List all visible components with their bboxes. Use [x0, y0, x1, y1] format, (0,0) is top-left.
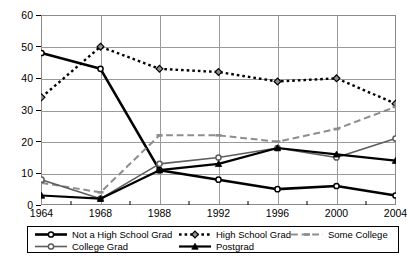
x-axis-tick-label: 2004 — [376, 207, 416, 219]
y-axis-tick-label: 40 — [1, 73, 33, 83]
series-data-point — [393, 193, 396, 198]
y-axis-tick-label: 30 — [1, 105, 33, 115]
legend-label: Some College — [328, 230, 388, 240]
y-axis-tick-label: 20 — [1, 137, 33, 147]
series-data-point — [41, 177, 44, 182]
series-data-point — [393, 136, 396, 141]
series-data-point — [156, 65, 163, 72]
legend-swatch-icon — [34, 241, 68, 252]
legend-swatch-icon — [178, 229, 212, 240]
x-axis-tick-label: 1992 — [199, 207, 239, 219]
y-axis-tick-label: 60 — [1, 10, 33, 20]
y-axis-tick-label: 50 — [1, 42, 33, 52]
series-data-point — [98, 191, 104, 194]
chart-series — [41, 43, 396, 107]
chart-series — [41, 145, 396, 202]
x-axis: 1964196819881992199620002004 — [0, 207, 419, 223]
series-data-point — [333, 75, 340, 82]
x-axis-tick-label: 1964 — [22, 207, 62, 219]
legend-item[interactable]: College Grad — [34, 240, 128, 253]
x-axis-tick-label: 2000 — [317, 207, 357, 219]
legend-swatch-icon — [290, 229, 324, 240]
legend-label: College Grad — [72, 242, 128, 252]
series-data-point — [41, 94, 45, 101]
x-axis-tick-label: 1988 — [140, 207, 180, 219]
series-data-point — [98, 66, 103, 71]
series-data-point — [275, 187, 280, 192]
series-data-point — [393, 106, 397, 109]
figure-caption — [20, 256, 410, 268]
y-axis-tick-label: 10 — [1, 168, 33, 178]
legend-swatch-icon — [34, 229, 68, 240]
series-data-point — [274, 78, 281, 85]
chart-figure: 0102030405060 19641968198819921996200020… — [0, 0, 419, 270]
series-data-point — [216, 155, 221, 160]
series-data-point — [157, 134, 163, 137]
chart-legend: Not a High School GradHigh School GradSo… — [27, 226, 399, 253]
series-data-point — [216, 134, 222, 137]
legend-item[interactable]: Some College — [290, 228, 388, 241]
legend-label: Not a High School Grad — [72, 230, 172, 240]
series-data-point — [275, 140, 281, 143]
chart-canvas — [41, 15, 396, 205]
series-data-point — [215, 69, 222, 76]
series-data-point — [216, 177, 221, 182]
x-axis-tick-label: 1968 — [81, 207, 121, 219]
series-line — [42, 139, 396, 199]
series-data-point — [334, 128, 340, 131]
legend-label: High School Grad — [216, 230, 291, 240]
legend-swatch-icon — [178, 241, 212, 252]
legend-item[interactable]: Postgrad — [178, 240, 254, 253]
legend-label: Postgrad — [216, 242, 254, 252]
series-data-point — [157, 161, 162, 166]
series-data-point — [41, 50, 44, 55]
y-axis: 0102030405060 — [0, 15, 37, 205]
series-data-point — [334, 183, 339, 188]
x-axis-tick-label: 1996 — [258, 207, 298, 219]
